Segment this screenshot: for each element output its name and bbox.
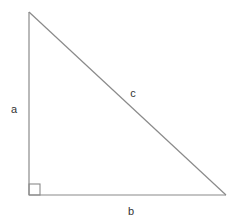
label-side-b: b <box>128 206 134 217</box>
side-c-hypotenuse-line <box>29 12 226 195</box>
label-side-a: a <box>11 104 17 115</box>
label-side-c: c <box>130 88 136 99</box>
triangle-svg <box>0 0 239 224</box>
right-angle-marker <box>29 184 40 195</box>
right-triangle-diagram: a c b <box>0 0 239 224</box>
